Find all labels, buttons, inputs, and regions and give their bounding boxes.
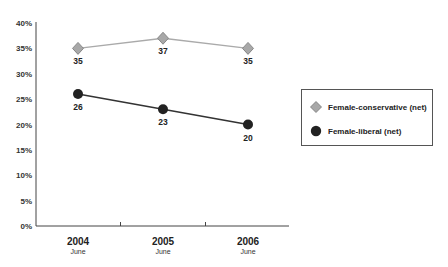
data-point-diamond <box>158 32 169 44</box>
legend: Female-conservative (net) Female-liberal… <box>301 89 433 146</box>
data-label: 35 <box>73 56 83 66</box>
diamond-marker-icon <box>310 101 322 113</box>
y-axis: 0%5%10%15%20%25%30%35%40% <box>16 19 36 231</box>
data-label: 26 <box>73 102 83 112</box>
data-point-circle <box>73 89 83 99</box>
y-tick-label: 0% <box>20 222 32 231</box>
x-tick-label-month: June <box>155 248 170 255</box>
legend-item-female-conservative: Female-conservative (net) <box>310 101 427 113</box>
y-tick-label: 15% <box>16 146 32 155</box>
x-tick-label-year: 2005 <box>152 236 175 247</box>
data-point-diamond <box>73 42 84 54</box>
x-axis: 2004June2005June2006June <box>36 222 289 255</box>
legend-item-female-liberal: Female-liberal (net) <box>310 125 401 137</box>
data-label: 20 <box>243 133 253 143</box>
data-label: 23 <box>158 117 168 127</box>
y-tick-label: 25% <box>16 95 32 104</box>
data-point-circle <box>158 104 168 114</box>
x-tick-label-month: June <box>240 248 255 255</box>
y-tick-label: 5% <box>20 197 32 206</box>
series-group: 353735262320 <box>73 32 254 142</box>
data-point-diamond <box>243 42 254 54</box>
x-tick-label-year: 2004 <box>67 236 90 247</box>
x-tick-label-year: 2006 <box>237 236 260 247</box>
y-tick-label: 40% <box>16 19 32 28</box>
y-tick-label: 35% <box>16 44 32 53</box>
legend-label: Female-conservative (net) <box>328 103 427 112</box>
y-tick-label: 30% <box>16 70 32 79</box>
series-female-conservative-net: 353735 <box>73 32 254 66</box>
y-tick-label: 20% <box>16 121 32 130</box>
data-label: 35 <box>243 56 253 66</box>
y-tick-label: 10% <box>16 171 32 180</box>
data-point-circle <box>243 120 253 130</box>
data-label: 37 <box>158 46 168 56</box>
series-female-liberal-net: 262320 <box>73 89 253 142</box>
legend-label: Female-liberal (net) <box>328 127 401 136</box>
x-tick-label-month: June <box>70 248 85 255</box>
circle-marker-icon <box>310 125 322 137</box>
